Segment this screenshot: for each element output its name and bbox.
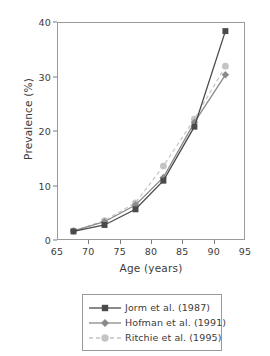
chart-legend: Jorm et al. (1987)Hofman et al. (1991)Ri…	[82, 294, 222, 351]
legend-marker-diamond-icon	[88, 316, 122, 330]
y-tick-label: 0	[45, 235, 51, 246]
x-axis-tick-marks	[57, 240, 245, 245]
legend-marker-circle-icon	[88, 331, 122, 345]
x-tick-label: 90	[207, 246, 220, 257]
x-tick-mark	[182, 240, 183, 244]
y-axis-tick-labels: 010203040	[22, 22, 51, 240]
x-tick-mark	[214, 240, 215, 244]
x-axis-label: Age (years)	[57, 262, 245, 274]
series-group	[70, 71, 229, 234]
x-tick-label: 80	[145, 246, 158, 257]
x-tick-label: 85	[176, 246, 189, 257]
legend-label: Jorm et al. (1987)	[122, 302, 210, 313]
legend-item: Hofman et al. (1991)	[83, 315, 221, 330]
plot-area	[57, 22, 245, 240]
y-tick-label: 40	[39, 17, 52, 28]
legend-item: Jorm et al. (1987)	[83, 300, 221, 315]
x-tick-label: 75	[113, 246, 126, 257]
series-group	[70, 63, 229, 235]
data-point-marker	[191, 124, 197, 130]
x-tick-mark	[88, 240, 89, 244]
data-point-marker	[222, 71, 229, 78]
x-tick-label: 70	[82, 246, 95, 257]
y-tick-label: 30	[39, 71, 52, 82]
data-series-canvas	[58, 23, 244, 239]
series-line	[74, 31, 226, 231]
series-line	[74, 75, 226, 231]
data-point-marker	[71, 228, 77, 234]
chart-figure: Prevalence (%) 010203040 65707580859095 …	[0, 0, 270, 356]
data-point-marker	[133, 206, 139, 212]
data-point-marker	[222, 28, 228, 34]
legend-label: Ritchie et al. (1995)	[122, 332, 222, 343]
series-line	[74, 66, 226, 231]
legend-label: Hofman et al. (1991)	[122, 317, 226, 328]
legend-item: Ritchie et al. (1995)	[83, 330, 221, 345]
x-axis-tick-labels: 65707580859095	[57, 246, 245, 260]
series-group	[71, 28, 229, 234]
legend-marker-square-icon	[88, 301, 122, 315]
x-tick-mark	[120, 240, 121, 244]
x-tick-mark	[151, 240, 152, 244]
data-point-marker	[102, 222, 108, 228]
data-point-marker	[160, 178, 166, 184]
x-tick-label: 65	[51, 246, 64, 257]
data-point-marker	[160, 163, 167, 170]
data-point-marker	[222, 63, 229, 70]
y-tick-label: 20	[39, 126, 52, 137]
y-tick-label: 10	[39, 180, 52, 191]
x-tick-label: 95	[239, 246, 252, 257]
